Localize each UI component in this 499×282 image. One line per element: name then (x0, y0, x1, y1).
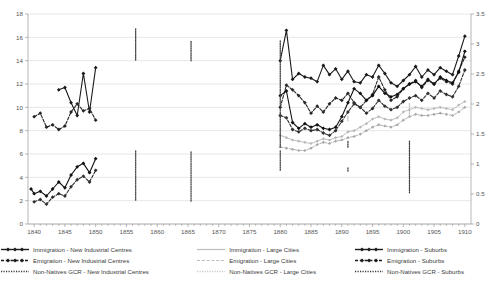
legend-swatch (196, 245, 226, 254)
series-marker (340, 138, 343, 141)
legend-item[interactable]: Immigration - New Industrial Centres (0, 244, 196, 255)
y-tick-label-right: 2 (476, 100, 480, 107)
series-marker (285, 136, 288, 139)
y-tick-label-left: 12 (16, 80, 23, 87)
legend-item-content: Immigration - Large Cities (196, 245, 354, 254)
legend-swatch-marker (20, 258, 24, 262)
series-marker (285, 28, 289, 32)
legend-item[interactable]: Immigration - Large Cities (196, 244, 354, 255)
legend-item-content: Immigration - Suburbs (354, 245, 499, 254)
series-marker (285, 147, 288, 150)
legend-row: Emigration - New Industrial CentresEmigr… (0, 255, 499, 266)
y-tick-label-left: 8 (20, 127, 24, 134)
x-tick-label: 1895 (366, 228, 380, 235)
legend-swatch-marker (6, 247, 10, 251)
x-tick-label: 1865 (181, 228, 195, 235)
series-marker (94, 168, 98, 172)
series-marker (445, 113, 448, 116)
x-tick-label: 1845 (58, 228, 72, 235)
legend-item[interactable]: Emigration - Large Cities (196, 255, 354, 266)
legend-item-label: Emigration - Large Cities (229, 257, 296, 264)
series-marker (457, 54, 461, 58)
plot-area: 02468101214161800.511.522.533.5184018451… (0, 0, 499, 240)
legend-swatch (0, 256, 30, 265)
legend-swatch (196, 267, 226, 276)
series-marker (322, 137, 325, 140)
series-marker (352, 135, 355, 138)
series-marker (291, 148, 294, 151)
legend-item[interactable]: Non-Natives GCR - Large Cities (196, 266, 354, 277)
series-marker (316, 140, 319, 143)
series-marker (57, 88, 61, 92)
series-marker (94, 66, 98, 70)
series-marker (408, 96, 412, 100)
series-marker (432, 113, 435, 116)
series-marker (297, 149, 300, 152)
x-tick-label: 1875 (243, 228, 257, 235)
series-marker (439, 112, 442, 115)
series-marker (371, 75, 375, 79)
series-marker (463, 49, 467, 53)
series-marker (69, 101, 73, 105)
y-tick-label-right: 2.5 (476, 70, 485, 77)
legend-item-label: Non-Natives GCR - Large Cities (229, 268, 316, 275)
y-tick-label-right: 3.5 (476, 10, 485, 17)
y-tick-label-left: 14 (16, 57, 23, 64)
series-marker (75, 114, 79, 118)
series-marker (463, 68, 467, 72)
legend-item[interactable]: Immigration - Suburbs (354, 244, 499, 255)
y-tick-label-left: 4 (20, 174, 24, 181)
series-marker (426, 114, 429, 117)
series-0 (57, 28, 467, 117)
series-marker (94, 157, 98, 161)
legend-item-label: Emigration - Suburbs (387, 257, 444, 264)
series-marker (94, 118, 98, 122)
legend-swatch (354, 245, 384, 254)
series-marker (328, 138, 331, 141)
series-marker (377, 115, 380, 118)
x-tick-label: 1840 (27, 228, 41, 235)
legend-item[interactable]: Emigration - Suburbs (354, 255, 499, 266)
series-marker (303, 141, 306, 144)
legend-item-content: Immigration - New Industrial Centres (0, 245, 196, 254)
legend-swatch (354, 267, 384, 276)
series-8 (71, 151, 468, 201)
y-tick-label-left: 0 (20, 220, 24, 227)
legend-swatch (0, 245, 30, 254)
legend-swatch (196, 256, 226, 265)
legend-item-content: Non-Natives GCR - Suburbs (354, 267, 499, 276)
chart-container: 02468101214161800.511.522.533.5184018451… (0, 0, 499, 282)
series-marker (285, 116, 289, 120)
legend-item-content: Emigration - New Industrial Centres (0, 256, 196, 265)
series-marker (414, 106, 417, 109)
series-marker (346, 101, 350, 105)
series-marker (377, 123, 380, 126)
x-tick-label: 1880 (273, 228, 287, 235)
series-marker (383, 117, 386, 120)
legend-row: Immigration - New Industrial CentresImmi… (0, 244, 499, 255)
legend-table: Immigration - New Industrial CentresImmi… (0, 244, 499, 277)
legend-item-label: Emigration - New Industrial Centres (33, 257, 129, 264)
x-tick-label: 1870 (212, 228, 226, 235)
y-tick-label-left: 6 (20, 150, 24, 157)
legend-item[interactable]: Emigration - New Industrial Centres (0, 255, 196, 266)
legend-swatch-marker (374, 258, 378, 262)
series-marker (309, 142, 312, 145)
chart-svg: 02468101214161800.511.522.533.5184018451… (0, 0, 499, 240)
x-tick-label: 1900 (396, 228, 410, 235)
legend-swatch-marker (6, 258, 10, 262)
legend-item[interactable]: Non-Natives GCR - Suburbs (354, 266, 499, 277)
x-tick-label: 1890 (335, 228, 349, 235)
series-marker (322, 141, 325, 144)
x-tick-label: 1850 (89, 228, 103, 235)
legend-item[interactable]: Non-Natives GCR - New Industrial Centres (0, 266, 196, 277)
series-line (280, 57, 465, 113)
x-tick-label: 1885 (304, 228, 318, 235)
series-marker (303, 126, 307, 130)
legend-swatch-marker (367, 258, 371, 262)
series-marker (371, 126, 374, 129)
series-marker (334, 140, 337, 143)
series-marker (439, 106, 442, 109)
series-marker (309, 129, 313, 133)
legend-item-content: Emigration - Suburbs (354, 256, 499, 265)
